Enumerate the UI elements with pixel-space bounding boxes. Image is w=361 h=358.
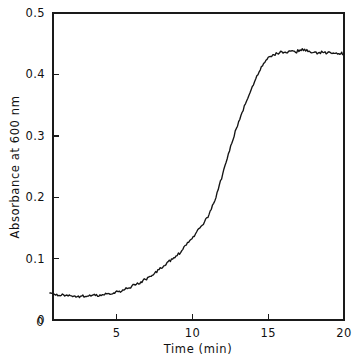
- x-axis-title: Time (min): [163, 342, 232, 356]
- x-axis-origin-label: 0: [36, 315, 44, 329]
- plot-frame: [53, 13, 344, 320]
- y-tick-label: 0.5: [26, 6, 46, 20]
- x-axis-ticks: [117, 314, 344, 320]
- absorbance-time-plot: 00.10.20.30.40.5 51015200 Time (min) Abs…: [0, 0, 361, 358]
- x-tick-label: 20: [336, 326, 351, 340]
- x-axis-tick-labels: 51015200: [36, 315, 351, 340]
- x-tick-label: 10: [185, 326, 200, 340]
- y-tick-label: 0.4: [26, 67, 46, 81]
- y-tick-label: 0.2: [26, 190, 46, 204]
- y-axis-ticks: [53, 13, 59, 259]
- y-axis-title: Absorbance at 600 nm: [8, 96, 22, 239]
- y-tick-label: 0.3: [26, 129, 46, 143]
- x-tick-label: 5: [113, 326, 121, 340]
- data-curve-growth: [50, 49, 344, 298]
- y-tick-label: 0.1: [26, 252, 46, 266]
- x-tick-label: 15: [260, 326, 275, 340]
- y-axis-tick-labels: 00.10.20.30.40.5: [26, 6, 46, 327]
- chart-figure: 00.10.20.30.40.5 51015200 Time (min) Abs…: [0, 0, 361, 358]
